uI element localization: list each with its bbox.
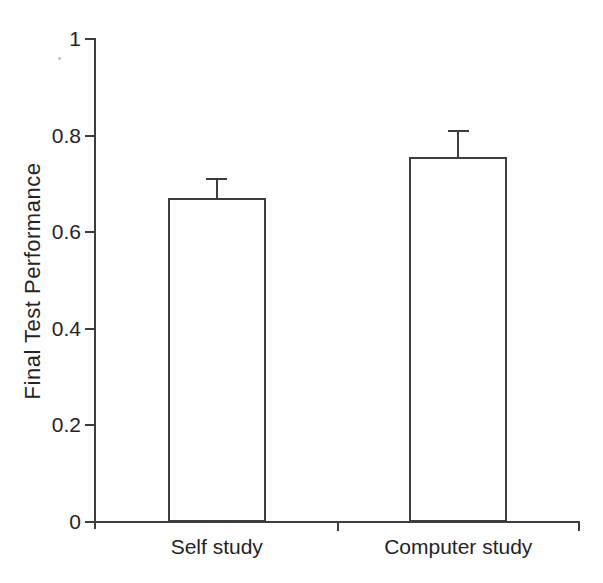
scan-artifact-dot xyxy=(58,57,61,60)
error-bar-stem xyxy=(457,131,459,158)
category-label: Self study xyxy=(97,535,337,559)
y-tick-label: 0.6 xyxy=(19,220,81,244)
category-label: Computer study xyxy=(338,535,578,559)
y-tick xyxy=(85,328,94,330)
y-tick xyxy=(85,38,94,40)
y-tick xyxy=(85,521,94,523)
error-bar-stem xyxy=(216,179,218,198)
y-axis-title: Final Test Performance xyxy=(20,163,46,400)
y-tick xyxy=(85,135,94,137)
bar xyxy=(409,157,507,522)
y-tick-label: 0.8 xyxy=(19,124,81,148)
error-bar-cap xyxy=(206,178,227,180)
y-tick-label: 0.2 xyxy=(19,413,81,437)
error-bar-cap xyxy=(448,130,469,132)
bar xyxy=(168,198,266,522)
bar-chart-figure: Final Test Performance 00.20.40.60.81Sel… xyxy=(0,0,603,583)
y-tick-label: 0 xyxy=(19,510,81,534)
y-tick xyxy=(85,424,94,426)
y-axis-line xyxy=(94,38,96,529)
x-tick xyxy=(337,523,339,531)
y-tick-label: 0.4 xyxy=(19,317,81,341)
x-tick xyxy=(578,523,580,531)
y-tick-label: 1 xyxy=(19,27,81,51)
y-tick xyxy=(85,231,94,233)
